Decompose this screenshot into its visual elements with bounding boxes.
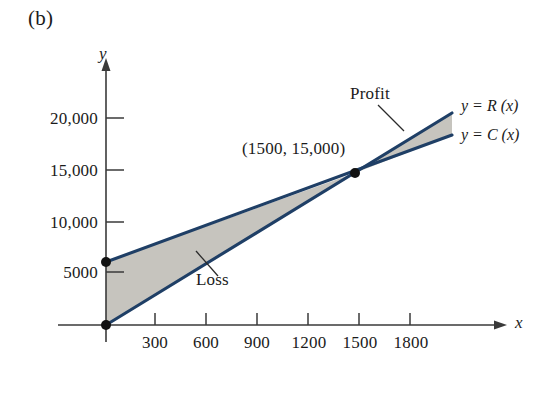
break-even-chart-figure: (b) y x 20,000 15,000 10,000 5000 300 60… [0,0,551,409]
break-even-point-dot [350,168,360,178]
x-axis-label: x [515,314,523,331]
cost-intercept-dot [101,257,111,267]
loss-region-label: Loss [196,271,229,288]
x-tick-label-600: 600 [193,334,219,351]
origin-dot [101,320,111,330]
y-tick-label-10000: 10,000 [28,214,98,231]
y-tick-label-15000: 15,000 [28,162,98,179]
y-axis-label: y [99,45,107,62]
profit-region-label: Profit [350,85,390,102]
x-tick-label-1200: 1200 [292,334,327,351]
y-tick-label-5000: 5000 [28,264,98,281]
x-tick-label-900: 900 [244,334,270,351]
y-tick-label-20000: 20,000 [28,110,98,127]
x-tick-label-1500: 1500 [343,334,378,351]
break-even-point-label: (1500, 15,000) [242,140,345,157]
y-axis-ticks [106,118,124,272]
x-axis-arrowhead [494,321,507,330]
x-axis-ticks [155,313,410,325]
x-tick-label-1800: 1800 [394,334,429,351]
chart-plot-area [0,0,551,409]
revenue-line-label: y = R (x) [461,98,518,114]
panel-tag: (b) [28,8,53,29]
cost-line-label: y = C (x) [461,127,519,143]
profit-leader-line [378,105,404,131]
x-tick-label-300: 300 [142,334,168,351]
